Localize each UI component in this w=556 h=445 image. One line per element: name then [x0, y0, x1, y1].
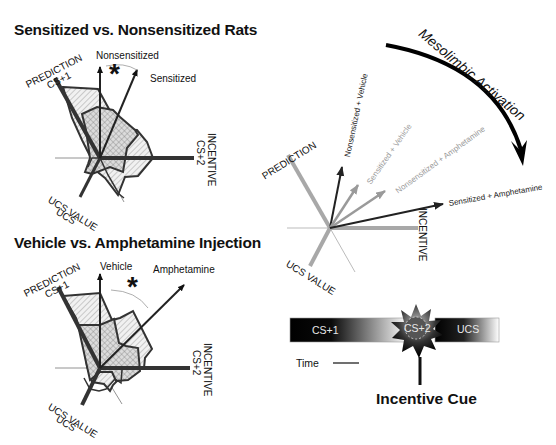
significance-asterisk: *: [127, 271, 138, 303]
panel-title-amphetamine: Vehicle vs. Amphetamine Injection: [14, 234, 261, 252]
timeline-segment-ucs: UCS: [457, 323, 479, 335]
significance-asterisk: *: [109, 58, 120, 90]
vector-label-amphetamine: Amphetamine: [153, 264, 215, 275]
vector-label-sensitized: Sensitized: [150, 73, 196, 84]
incentive-cue-label: Incentive Cue: [376, 390, 477, 408]
axis-label-incentive: INCENTIVE: [202, 343, 213, 396]
timeline-bar: [290, 304, 499, 385]
panel-title-sensitized: Sensitized vs. Nonsensitized Rats: [14, 21, 257, 39]
radar-chart-amphetamine: [55, 274, 190, 405]
axis-label-incentive: INCENTIVE: [206, 133, 217, 186]
vector-label-nonsensitized: Nonsensitized: [96, 50, 159, 61]
axis-label-cs2: CS+2: [195, 140, 206, 165]
axis-label-cs2: CS+2: [191, 350, 202, 375]
axis-label-incentive: INCENTIVE: [417, 208, 428, 261]
radar-chart-sensitized: [55, 65, 194, 202]
timeline-segment-cs1: CS+1: [312, 324, 339, 336]
timeline-segment-cs2: CS+2: [404, 322, 431, 334]
time-scale-label: Time: [296, 357, 319, 369]
